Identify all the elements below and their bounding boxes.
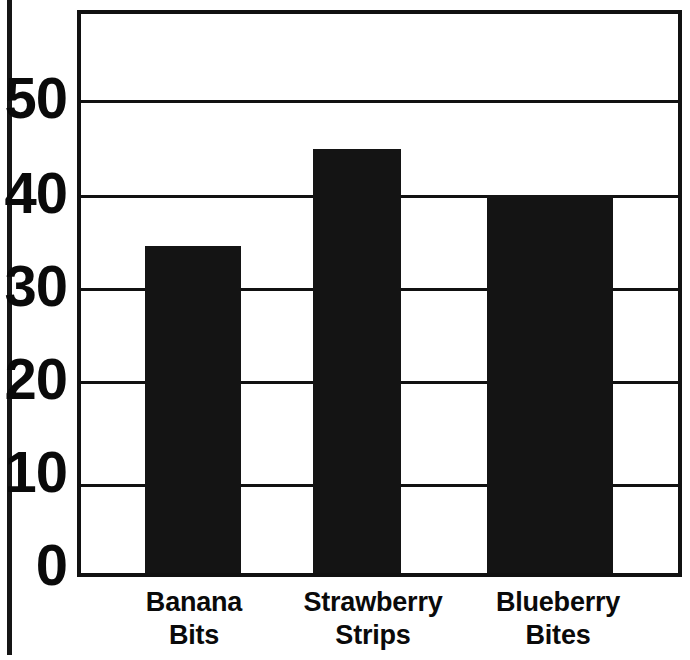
category-label-line1: Blueberry <box>496 587 620 617</box>
category-label-strawberry-strips: Strawberry Strips <box>273 586 473 652</box>
gridline-50 <box>81 100 678 103</box>
y-tick-label-40: 40 <box>4 164 67 222</box>
category-label-line1: Strawberry <box>303 587 442 617</box>
category-label-banana-bits: Banana Bits <box>99 586 289 652</box>
category-label-blueberry-bites: Blueberry Bites <box>463 586 653 652</box>
category-label-line2: Strips <box>273 619 473 652</box>
bar-blueberry-bites[interactable] <box>487 195 613 573</box>
category-label-line2: Bites <box>463 619 653 652</box>
bar-strawberry-strips[interactable] <box>313 149 401 573</box>
y-tick-label-10: 10 <box>4 443 67 501</box>
category-label-line2: Bits <box>99 619 289 652</box>
y-tick-label-0: 0 <box>36 536 67 594</box>
x-axis-category-labels: Banana Bits Strawberry Strips Blueberry … <box>77 586 682 660</box>
bar-chart: 50 40 30 20 10 0 Banana Bits Strawberry … <box>0 0 690 660</box>
y-tick-label-50: 50 <box>4 69 67 127</box>
y-tick-label-30: 30 <box>4 257 67 315</box>
y-axis-tick-labels: 50 40 30 20 10 0 <box>0 0 72 660</box>
y-tick-label-20: 20 <box>4 350 67 408</box>
plot-area <box>77 10 682 577</box>
bar-banana-bits[interactable] <box>145 246 241 573</box>
category-label-line1: Banana <box>146 587 242 617</box>
